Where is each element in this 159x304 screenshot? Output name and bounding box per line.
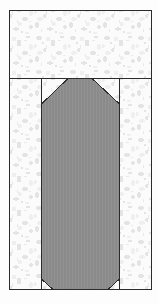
region-top-band — [10, 11, 152, 79]
region-right-jamb — [120, 78, 152, 290]
cross-section-diagram — [0, 0, 159, 304]
region-left-jamb — [10, 78, 42, 290]
figure-root — [0, 0, 159, 304]
pier-polygon — [42, 79, 120, 290]
